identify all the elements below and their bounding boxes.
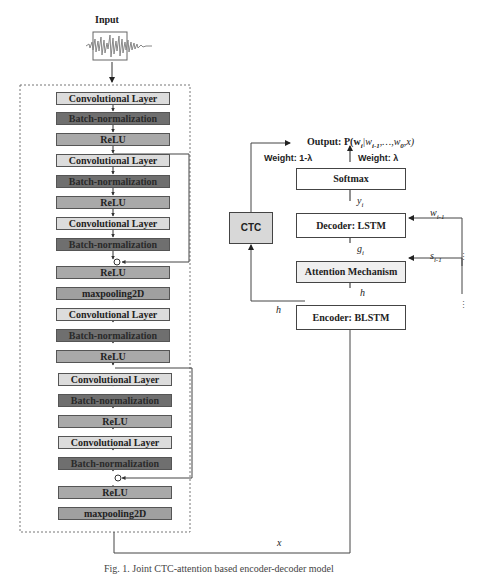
maxpool-layer-2: maxpooling2D (58, 507, 172, 520)
relu-layer-2: ReLU (56, 196, 170, 209)
conv-layer-1: Convolutional Layer (56, 92, 170, 105)
ctc-box: CTC (229, 212, 273, 244)
g-label: gi (357, 243, 364, 257)
relu-layer-1: ReLU (56, 133, 170, 146)
h-label-attention: h (360, 287, 365, 298)
h-label-ctc: h (276, 304, 281, 315)
x-label: x (277, 537, 281, 548)
conv-layer-3: Convolutional Layer (56, 217, 170, 230)
relu-layer-3: ReLU (56, 266, 170, 279)
ellipsis-lower: ⋮ (459, 300, 468, 310)
s-prev-label: si-1 (430, 250, 442, 264)
batchnorm-layer-1: Batch-normalization (56, 112, 170, 125)
conv-layer-2: Convolutional Layer (56, 154, 170, 167)
batchnorm-layer-4: Batch-normalization (56, 329, 170, 342)
y-label: yi (357, 195, 363, 209)
weight-ctc-label: Weight: 1-λ (264, 153, 312, 163)
relu-layer-4: ReLU (56, 350, 170, 363)
maxpool-layer-1: maxpooling2D (56, 287, 170, 300)
conv-layer-5: Convolutional Layer (58, 373, 172, 386)
w-prev-label: wi-1 (430, 207, 444, 221)
figure-caption: Fig. 1. Joint CTC-attention based encode… (104, 563, 334, 574)
batchnorm-layer-6: Batch-normalization (58, 457, 172, 470)
batchnorm-layer-3: Batch-normalization (56, 238, 170, 251)
ellipsis-upper: ⋮ (459, 252, 468, 262)
batchnorm-layer-5: Batch-normalization (58, 394, 172, 407)
encoder-blstm-box: Encoder: BLSTM (296, 305, 406, 330)
softmax-box: Softmax (296, 168, 406, 190)
conv-layer-6: Convolutional Layer (58, 436, 172, 449)
relu-layer-5: ReLU (58, 415, 172, 428)
output-label: Output: P(wi|wi-1,…,w0,x) (307, 136, 414, 150)
relu-layer-6: ReLU (58, 486, 172, 499)
batchnorm-layer-2: Batch-normalization (56, 175, 170, 188)
decoder-lstm-box: Decoder: LSTM (296, 213, 406, 238)
attention-mechanism-box: Attention Mechanism (296, 261, 406, 283)
weight-attention-label: Weight: λ (358, 153, 398, 163)
conv-layer-4: Convolutional Layer (56, 308, 170, 321)
